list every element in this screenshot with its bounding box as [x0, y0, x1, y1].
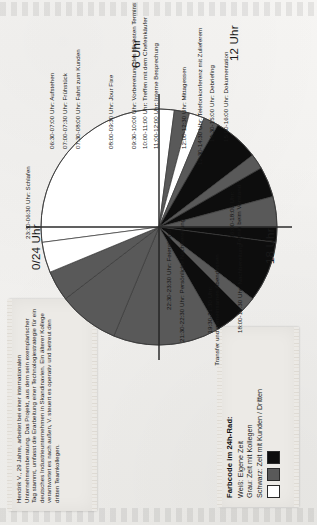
vorstand-line-1: 16:00-18:00 Uhr:: [228, 192, 235, 239]
activity-label-vorbereitung: 09:30-10:00 Uhr: Vorbereitung des nächst…: [130, 3, 137, 149]
activity-label-telefonkonferenz: 12:30-14:30 Uhr: Telefonkonferenz mit Zu…: [196, 28, 203, 165]
legend-swatch-white: [267, 485, 280, 498]
activity-label-fahrt-zum-kunden: 07:30-08:00 Uhr: Fahrt zum Kunden: [74, 49, 81, 149]
landscape-canvas: Hendrik V., 29 Jahre, arbeitet bei einer…: [0, 0, 317, 525]
activity-label-mittagessen: 12:00-12:30 Uhr: Mittagessen: [180, 67, 187, 149]
legend-swatch-black: [267, 451, 280, 464]
activity-label-feierabend: 22:30-23:30 Uhr: Feierabend: [165, 230, 172, 310]
hour-label-18: 18 Uhr: [264, 228, 276, 264]
activity-label-aufstehen: 06:30-07:00 Uhr: Aufstehen: [48, 73, 55, 149]
activity-label-transfer-abendessen: 19:30-21:30 Uhr: Transfer und gemeinsame…: [206, 245, 221, 375]
abend-line-2: Transfer und gemeinsames Abendessen: [213, 254, 220, 366]
activity-label-jour-fixe: 08:00-09:30 Uhr: Jour Fixe: [107, 75, 114, 149]
activity-label-dokumentation: 15:00-16:00 Uhr: Dokumentation: [222, 52, 229, 142]
hour-label-0: 0/24 Uhr: [30, 224, 42, 270]
activity-label-debriefing: 14:30-15:00 Uhr: Debriefing: [208, 65, 215, 142]
activity-label-schlafen: 23:30-06:30 Uhr: Schlafen: [24, 166, 31, 239]
activity-label-persoenliche-nachbereitung: 21:30-22:30 Uhr: Persönliche Nachbereitu…: [178, 219, 185, 342]
activity-label-chefeinkaeufer: 10:00-11:00 Uhr: Treffen mit dem Chefein…: [141, 17, 148, 149]
scanned-page: Hendrik V., 29 Jahre, arbeitet bei einer…: [0, 0, 317, 525]
vorstand-line-2: Termin beim Vorstand: [235, 185, 242, 245]
activity-label-interne-besprechung: 11:00-12:00 Uhr: Interne Besprechung: [152, 43, 159, 149]
activity-label-fruehstueck: 07:00-07:30 Uhr: Frühstück: [61, 73, 68, 149]
abend-line-1: 19:30-21:30 Uhr:: [206, 287, 213, 334]
legend-swatch-gray: [267, 468, 280, 481]
hour-label-12: 12 Uhr: [228, 25, 240, 61]
activity-label-nachbereitung: 18:00-19:30 Uhr: Nachbereitung: [236, 244, 243, 333]
